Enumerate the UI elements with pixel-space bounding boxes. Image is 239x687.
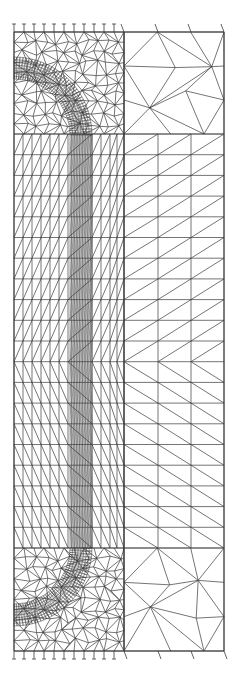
boundary-supports xyxy=(12,24,227,659)
unstructured-top-region xyxy=(14,32,224,134)
structured-region xyxy=(14,134,224,548)
fem-mesh-diagram xyxy=(0,0,239,687)
